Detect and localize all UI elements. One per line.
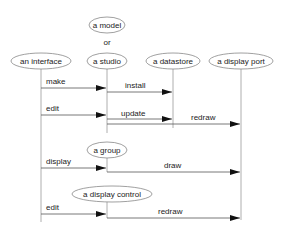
label-datastore: a datastore [153, 57, 194, 66]
label-display-control: a display control [83, 190, 141, 199]
msg-edit-2: edit [46, 203, 60, 212]
msg-edit-1: edit [46, 104, 60, 113]
msg-update: update [121, 109, 146, 118]
label-studio: a studio [93, 57, 122, 66]
msg-display: display [46, 157, 71, 166]
label-model: a model [93, 21, 122, 30]
msg-install: install [125, 81, 146, 90]
msg-redraw-2: redraw [158, 207, 183, 216]
label-group: a group [93, 146, 121, 155]
msg-make: make [46, 77, 66, 86]
label-interface: an interface [20, 57, 62, 66]
msg-redraw-1: redraw [191, 113, 216, 122]
msg-draw: draw [164, 161, 182, 170]
sequence-diagram: a model or an interface a studio a datas… [0, 0, 288, 234]
label-or: or [103, 38, 110, 47]
label-display-port: a display port [217, 57, 265, 66]
